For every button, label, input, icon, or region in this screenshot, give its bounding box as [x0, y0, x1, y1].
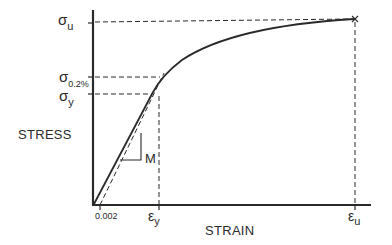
stress-strain-diagram	[0, 0, 392, 245]
label-0002: 0.002	[95, 212, 118, 221]
label-sigma-y: σy	[59, 88, 74, 103]
offset-line	[100, 73, 164, 205]
label-eps-y: εy	[148, 209, 160, 223]
label-eps-u: εu	[348, 209, 360, 223]
slope-triangle	[120, 133, 141, 160]
stress-strain-curve	[94, 19, 354, 204]
label-sigma-u: σu	[58, 12, 73, 27]
label-sigma-02: σ0.2%	[59, 69, 89, 84]
slope-label: M	[145, 152, 156, 165]
x-axis-title: STRAIN	[205, 224, 254, 237]
y-axis-title: STRESS	[18, 128, 72, 141]
